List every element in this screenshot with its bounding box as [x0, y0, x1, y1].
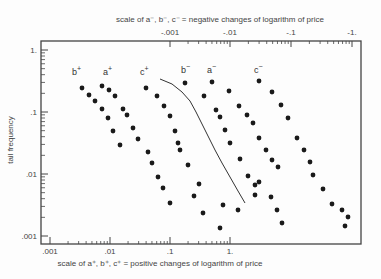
top-tick-label: -1. — [347, 28, 356, 37]
data-point-a+ — [161, 186, 166, 191]
data-point-b- — [202, 94, 207, 99]
data-point-a+ — [131, 126, 136, 131]
data-point-c+ — [192, 194, 197, 199]
data-point-c- — [346, 215, 351, 220]
data-point-b- — [236, 208, 241, 213]
series-label-a+: a+ — [103, 65, 112, 77]
series-label-c-: c− — [254, 63, 263, 75]
data-point-b+ — [93, 99, 98, 104]
data-point-c+ — [144, 86, 149, 91]
data-point-a- — [257, 180, 262, 185]
bottom-tick-label: .001 — [42, 247, 58, 256]
data-point-a- — [251, 121, 256, 126]
data-point-c- — [321, 187, 326, 192]
data-point-a+ — [150, 161, 155, 166]
chart-svg: scale of a⁻, b⁻, c⁻ = negative changes o… — [0, 0, 381, 279]
data-point-c+ — [201, 211, 206, 216]
data-point-c- — [330, 202, 335, 207]
top-axis-title: scale of a⁻, b⁻, c⁻ = negative changes o… — [116, 15, 324, 24]
data-point-a+ — [113, 94, 118, 99]
data-points — [80, 79, 351, 231]
x-axis-title: scale of a⁺, b⁺, c⁺ = positive changes o… — [58, 259, 263, 268]
data-point-a- — [276, 165, 281, 170]
data-point-a- — [269, 195, 274, 200]
data-point-b- — [253, 193, 258, 198]
data-point-b+ — [111, 129, 116, 134]
data-point-a- — [275, 208, 280, 213]
left-axis-ticks: 1..1.01.001 — [21, 46, 48, 241]
top-axis-ticks: -.001-.01-.1-1. — [161, 28, 357, 47]
data-point-b- — [218, 226, 223, 231]
data-point-c+ — [178, 148, 183, 153]
data-point-c- — [295, 136, 300, 141]
data-point-c+ — [186, 163, 191, 168]
series-label-b+: b+ — [72, 65, 81, 77]
data-point-b+ — [106, 116, 111, 121]
data-point-a- — [237, 104, 242, 109]
bottom-axis-ticks: .001.01.11. — [42, 237, 233, 256]
data-point-c- — [257, 79, 262, 84]
data-point-a- — [264, 148, 269, 153]
data-point-c- — [279, 103, 284, 108]
data-point-b- — [221, 203, 226, 208]
data-point-c+ — [176, 141, 181, 146]
bottom-tick-label: 1. — [227, 247, 234, 256]
series-label-b-: b− — [181, 63, 190, 75]
y-tick-label: 1. — [30, 46, 37, 55]
data-point-b+ — [87, 93, 92, 98]
data-point-c- — [286, 116, 291, 121]
data-point-a- — [280, 221, 285, 226]
data-point-c- — [308, 160, 313, 165]
top-tick-label: -.1 — [286, 28, 296, 37]
data-point-c+ — [155, 94, 160, 99]
y-axis-title: tail frequency — [6, 116, 15, 164]
series-label-a-: a− — [207, 63, 216, 75]
data-point-a- — [270, 158, 275, 163]
data-point-a+ — [125, 113, 130, 118]
data-point-b- — [214, 108, 219, 113]
data-point-b- — [238, 157, 243, 162]
data-point-a+ — [107, 88, 112, 93]
data-point-a+ — [156, 175, 161, 180]
data-point-a- — [227, 89, 232, 94]
data-point-a- — [257, 136, 262, 141]
data-point-c+ — [173, 129, 178, 134]
data-point-c+ — [168, 114, 173, 119]
data-point-c- — [302, 148, 307, 153]
data-point-c- — [311, 173, 316, 178]
data-point-b+ — [118, 143, 123, 148]
data-point-c- — [340, 208, 345, 213]
data-point-a+ — [100, 84, 105, 89]
data-point-a- — [245, 113, 250, 118]
data-point-c+ — [162, 104, 167, 109]
data-point-a+ — [136, 137, 141, 142]
data-point-c+ — [197, 182, 202, 187]
data-point-b- — [246, 174, 251, 179]
top-tick-label: -.001 — [161, 28, 180, 37]
series-labels: b+a+c+b−a−c− — [72, 63, 263, 77]
data-point-b- — [183, 81, 188, 86]
data-point-a+ — [168, 201, 173, 206]
data-point-b+ — [100, 107, 105, 112]
y-tick-label: .1 — [30, 108, 37, 117]
data-point-c- — [270, 90, 275, 95]
data-point-c- — [343, 224, 348, 229]
data-point-a+ — [146, 150, 151, 155]
top-tick-label: -.01 — [223, 28, 237, 37]
data-point-b- — [228, 141, 233, 146]
y-tick-label: .001 — [21, 232, 37, 241]
y-tick-label: .01 — [26, 170, 38, 179]
bottom-tick-label: .01 — [104, 247, 116, 256]
bottom-tick-label: .1 — [167, 247, 174, 256]
data-point-b+ — [80, 86, 85, 91]
data-point-b- — [223, 128, 228, 133]
data-point-b- — [253, 183, 258, 188]
data-point-b- — [218, 115, 223, 120]
data-point-a- — [210, 80, 215, 85]
series-label-c+: c+ — [140, 65, 149, 77]
data-point-a+ — [121, 107, 126, 112]
